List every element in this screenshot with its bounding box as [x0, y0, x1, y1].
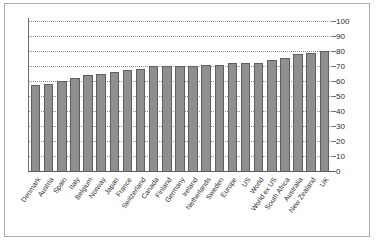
x-axis-label-slot: New Zealand	[305, 174, 318, 240]
bar-series	[28, 18, 332, 172]
bar[interactable]	[306, 53, 315, 172]
bar-slot	[305, 18, 318, 172]
y-axis-label-80: 80	[336, 48, 345, 56]
y-axis-label-60: 60	[336, 78, 345, 86]
y-axis-label-30: 30	[336, 123, 345, 131]
bar[interactable]	[175, 66, 184, 172]
bar-slot	[68, 18, 81, 172]
x-axis-label-slot: Sweden	[213, 174, 226, 240]
x-axis-label-slot: Netherlands	[200, 174, 213, 240]
bar-chart: 0102030405060708090100 DenmarkAustriaSpa…	[0, 0, 377, 245]
bar-slot	[82, 18, 95, 172]
bar[interactable]	[110, 72, 119, 173]
bar[interactable]	[44, 84, 53, 173]
bar-slot	[121, 18, 134, 172]
bar[interactable]	[320, 51, 329, 172]
bar[interactable]	[96, 74, 105, 172]
x-axis-label-slot: Spain	[55, 174, 68, 240]
x-axis-label-slot: Italy	[68, 174, 81, 240]
y-axis-label-70: 70	[336, 63, 345, 71]
y-axis-label-10: 10	[336, 153, 345, 161]
bar[interactable]	[123, 70, 132, 172]
bar-slot	[147, 18, 160, 172]
x-axis-label-slot: Finland	[160, 174, 173, 240]
bar[interactable]	[162, 66, 171, 173]
x-axis-label-slot: UK	[318, 174, 331, 240]
y-axis-label-100: 100	[336, 18, 349, 26]
x-axis-label-slot: Norway	[95, 174, 108, 240]
bar-slot	[265, 18, 278, 172]
y-axis-label-50: 50	[336, 93, 345, 101]
x-axis-label-slot: Austria	[42, 174, 55, 240]
bar-slot	[95, 18, 108, 172]
y-axis-label-20: 20	[336, 138, 345, 146]
x-axis-label-slot: Denmark	[29, 174, 42, 240]
bar-slot	[187, 18, 200, 172]
y-axis-label-40: 40	[336, 108, 345, 116]
bar-slot	[160, 18, 173, 172]
bar[interactable]	[188, 66, 197, 172]
bar[interactable]	[267, 60, 276, 172]
bar-slot	[108, 18, 121, 172]
bar-slot	[252, 18, 265, 172]
x-axis-label-slot: Canada	[147, 174, 160, 240]
x-axis-label-slot: Europe	[226, 174, 239, 240]
bar-slot	[226, 18, 239, 172]
bar-slot	[134, 18, 147, 172]
x-axis-label-slot: Japan	[108, 174, 121, 240]
bar-slot	[29, 18, 42, 172]
y-axis-label-0: 0	[336, 168, 340, 176]
bar-slot	[278, 18, 291, 172]
bar[interactable]	[201, 65, 210, 172]
bar[interactable]	[31, 85, 40, 172]
bar[interactable]	[57, 81, 66, 173]
bar[interactable]	[70, 78, 79, 172]
bar[interactable]	[254, 63, 263, 173]
bar-slot	[292, 18, 305, 172]
bar-slot	[239, 18, 252, 172]
x-axis-label-slot: Belgium	[82, 174, 95, 240]
bar[interactable]	[215, 65, 224, 172]
bar-slot	[173, 18, 186, 172]
bar-slot	[55, 18, 68, 172]
x-axis-labels: DenmarkAustriaSpainItalyBelgiumNorwayJap…	[28, 174, 332, 240]
bar[interactable]	[228, 63, 237, 172]
bar[interactable]	[149, 66, 158, 173]
bar-slot	[318, 18, 331, 172]
x-axis-label: UK	[319, 176, 331, 189]
bar[interactable]	[293, 54, 302, 173]
bar[interactable]	[241, 63, 250, 173]
bar[interactable]	[136, 69, 145, 172]
x-axis-label-slot: Switzerland	[134, 174, 147, 240]
plot-area	[28, 18, 332, 172]
y-axis-label-90: 90	[336, 33, 345, 41]
bar-slot	[42, 18, 55, 172]
bar[interactable]	[280, 58, 289, 172]
bar-slot	[213, 18, 226, 172]
bar-slot	[200, 18, 213, 172]
bar[interactable]	[83, 75, 92, 173]
